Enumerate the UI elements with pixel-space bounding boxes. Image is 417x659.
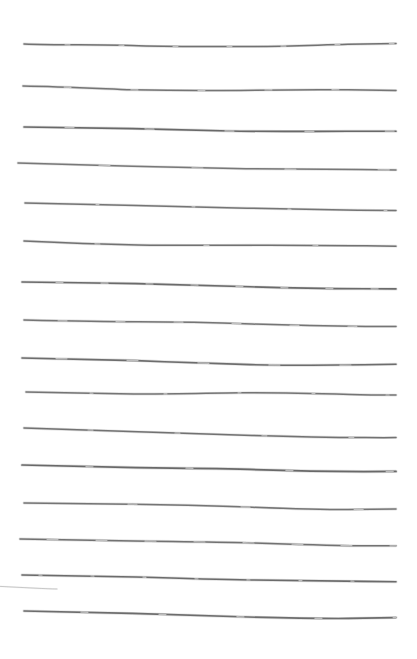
ruled-line <box>18 163 396 170</box>
ruled-line <box>24 428 396 438</box>
ruled-line <box>22 282 396 289</box>
ruled-line-texture <box>22 358 396 365</box>
ruled-line-texture <box>26 392 396 395</box>
ruled-line-texture <box>22 465 396 472</box>
ruled-line <box>0 586 57 589</box>
ruled-line <box>22 358 396 365</box>
ruled-line-texture <box>23 86 396 91</box>
ruled-line-texture <box>20 539 396 546</box>
ruled-line <box>23 86 396 91</box>
ruled-line <box>24 241 396 246</box>
ruled-lines-canvas <box>0 0 417 659</box>
ruled-line <box>24 320 396 326</box>
ruled-line <box>20 539 396 546</box>
ruled-line-texture <box>24 127 396 131</box>
ruled-line-texture <box>24 320 396 326</box>
ruled-line-texture <box>24 611 396 618</box>
hand-drawn-ruled-paper-sheet <box>0 0 417 659</box>
ruled-line-texture <box>25 203 396 211</box>
ruled-line-texture <box>22 575 396 582</box>
ruled-line <box>24 611 396 618</box>
ruled-line <box>22 465 396 472</box>
ruled-line-texture <box>24 503 396 510</box>
ruled-line <box>22 575 396 582</box>
ruled-line <box>24 503 396 510</box>
ruled-line <box>26 392 396 395</box>
ruled-line-texture <box>24 428 396 438</box>
ruled-line <box>24 44 396 47</box>
ruled-line-texture <box>24 241 396 246</box>
ruled-line <box>24 127 396 131</box>
ruled-line <box>25 203 396 211</box>
ruled-line-texture <box>22 282 396 289</box>
ruled-line-texture <box>18 163 396 170</box>
ruled-line-texture <box>0 586 57 589</box>
